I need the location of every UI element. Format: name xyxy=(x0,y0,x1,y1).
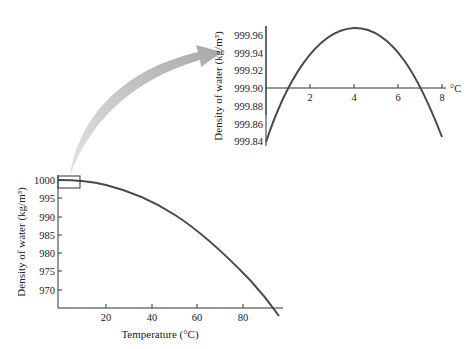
y-tick-label: 999.94 xyxy=(234,48,264,59)
x-tick-label: 40 xyxy=(147,312,158,323)
y-tick-label: 985 xyxy=(39,230,55,241)
x-tick-label: 6 xyxy=(395,92,400,103)
y-tick-label: 970 xyxy=(39,285,55,296)
main-chart: 1000 995 990 985 980 975 970 20 40 60 80… xyxy=(15,175,283,341)
x-unit-label: °C xyxy=(450,83,461,94)
inset-y-ticks: 999.96 999.94 999.92 999.90 999.88 999.8… xyxy=(234,30,264,147)
y-tick-label: 980 xyxy=(39,248,55,259)
main-x-ticks: 20 40 60 80 xyxy=(101,304,249,323)
zoom-region-box xyxy=(58,176,80,188)
x-tick-label: 4 xyxy=(351,92,357,103)
y-tick-label: 999.88 xyxy=(234,101,263,112)
x-tick-label: 80 xyxy=(238,312,249,323)
inset-chart: 999.96 999.94 999.92 999.90 999.88 999.8… xyxy=(212,26,461,147)
x-tick-label: 60 xyxy=(192,312,203,323)
density-curve xyxy=(58,180,279,316)
figure: 1000 995 990 985 980 975 970 20 40 60 80… xyxy=(0,0,466,349)
y-tick-label: 999.84 xyxy=(234,136,264,147)
zoom-arrow xyxy=(70,45,222,176)
y-tick-label: 1000 xyxy=(34,175,55,186)
x-tick-label: 2 xyxy=(307,92,312,103)
y-tick-label: 995 xyxy=(39,193,55,204)
inset-y-axis-title: Density of water (kg/m³) xyxy=(212,31,225,141)
y-tick-label: 999.86 xyxy=(234,119,263,130)
x-tick-label: 20 xyxy=(101,312,112,323)
y-axis-title: Density of water (kg/m³) xyxy=(15,187,28,297)
y-tick-label: 975 xyxy=(39,266,55,277)
y-tick-label: 999.96 xyxy=(234,30,263,41)
y-tick-label: 999.92 xyxy=(234,65,263,76)
x-tick-label: 8 xyxy=(439,92,444,103)
x-axis-title: Temperature (°C) xyxy=(121,328,199,341)
y-tick-label: 990 xyxy=(39,212,55,223)
y-tick-label: 999.90 xyxy=(234,83,263,94)
